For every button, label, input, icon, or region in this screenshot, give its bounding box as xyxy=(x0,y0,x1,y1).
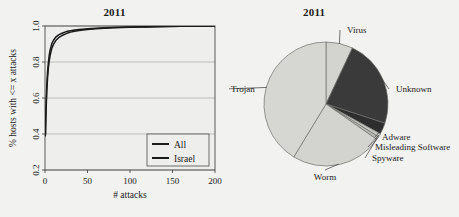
pie-label-virus: Virus xyxy=(347,25,367,35)
y-tick-label: 0.4 xyxy=(31,128,41,140)
pie-label-adware: Adware xyxy=(382,132,411,142)
x-tick-label: 50 xyxy=(83,176,93,186)
legend-label: Israel xyxy=(174,154,195,164)
y-tick-label: 0.8 xyxy=(31,56,41,68)
x-tick-label: 0 xyxy=(43,176,48,186)
line-chart-svg: 0.20.40.60.81.0050100150200# attacks% ho… xyxy=(0,0,229,217)
x-axis-label: # attacks xyxy=(113,190,147,200)
figure-container: 2011 0.20.40.60.81.0050100150200# attack… xyxy=(0,0,459,217)
pie-label-trojan: Trojan xyxy=(231,84,255,94)
line-chart-panel: 2011 0.20.40.60.81.0050100150200# attack… xyxy=(0,0,229,217)
x-tick-label: 100 xyxy=(123,176,137,186)
y-tick-label: 0.2 xyxy=(31,164,41,175)
x-tick-label: 200 xyxy=(208,176,222,186)
pie-label-spyware: Spyware xyxy=(372,153,404,163)
y-axis-label: % hosts with <= x attacks xyxy=(8,49,18,147)
pie-label-worm: Worm xyxy=(314,172,336,182)
pie-leader-line xyxy=(339,30,340,44)
y-tick-label: 0.6 xyxy=(31,92,41,104)
pie-chart-panel: 2011 VirusUnknownAdwareMisleading Softwa… xyxy=(229,0,459,217)
pie-label-misleading-software: Misleading Software xyxy=(375,142,450,152)
pie-chart-svg: VirusUnknownAdwareMisleading SoftwareSpy… xyxy=(229,0,459,217)
legend-label: All xyxy=(174,140,187,150)
x-tick-label: 150 xyxy=(166,176,180,186)
y-tick-label: 1.0 xyxy=(31,20,41,32)
pie-label-unknown: Unknown xyxy=(396,84,432,94)
